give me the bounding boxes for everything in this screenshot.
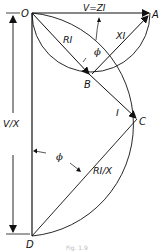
label-v-zi: V=ZI (83, 3, 106, 13)
label-phi-bottom: ϕ (56, 151, 63, 162)
label-a: A (151, 9, 159, 20)
label-ri-over-x: RI/X (93, 165, 113, 176)
label-phi-top: ϕ (94, 46, 101, 57)
chord-ri-over-x (32, 119, 137, 236)
label-i: I (116, 107, 119, 118)
label-v-over-x: V/X (3, 118, 20, 129)
label-ri: RI (63, 34, 73, 45)
phasor-diagram: O A B C D V=ZI RI XI I RI/X ϕ ϕ V/X Fig.… (0, 0, 163, 252)
voltage-locus-semicircle (32, 13, 150, 72)
label-b: B (84, 79, 91, 90)
label-o: O (21, 8, 29, 19)
label-xi: XI (115, 30, 126, 41)
vector-i (89, 74, 136, 118)
label-d: D (26, 239, 34, 250)
label-c: C (139, 116, 146, 127)
figure-caption: Fig. 1.9 (66, 244, 88, 252)
